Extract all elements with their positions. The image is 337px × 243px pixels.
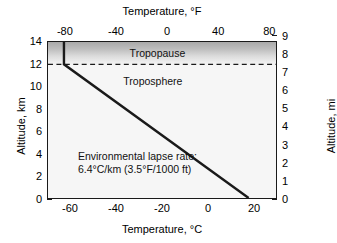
right-tick-label: 8 [282,48,307,60]
lapse-rate-line-2: 6.4°C/km (3.5°F/1000 ft) [78,163,197,177]
bottom-tick-label: 20 [248,202,260,214]
left-tick-label: 8 [17,103,42,115]
bottom-tick-label: -40 [108,202,124,214]
right-tick-label: 0 [282,193,307,205]
bottom-axis-title: Temperature, °C [122,223,202,235]
right-tick-label: 2 [282,157,307,169]
bottom-tick-label: 0 [205,202,211,214]
left-tick-label: 10 [17,80,42,92]
right-axis-title: Altitude, mi [325,81,337,171]
right-tick-label: 4 [282,120,307,132]
plot-area: Tropopause Troposphere Environmental lap… [47,41,277,199]
right-tick-label: 1 [282,175,307,187]
right-tick-label: 3 [282,139,307,151]
left-tick-label: 4 [17,148,42,160]
top-tick-label: 0 [164,25,170,37]
left-tick-label: 0 [17,193,42,205]
left-tick-label: 6 [17,125,42,137]
lapse-rate-annotation: Environmental lapse rate: 6.4°C/km (3.5°… [78,150,197,177]
bottom-tick-label: -60 [62,202,78,214]
tropopause-label: Tropopause [130,47,186,59]
right-tick-label: 5 [282,102,307,114]
right-tick-label: 9 [282,30,307,42]
troposphere-label: Troposphere [123,75,182,87]
right-tick-label: 7 [282,66,307,78]
top-axis-title: Temperature, °F [123,5,202,17]
left-tick-label: 12 [17,58,42,70]
left-tick-label: 2 [17,170,42,182]
left-tick-label: 14 [17,35,42,47]
top-tick-label: -80 [57,25,73,37]
top-tick-label: -40 [108,25,124,37]
right-tick [272,35,277,36]
bottom-tick-label: -20 [154,202,170,214]
lapse-rate-line-1: Environmental lapse rate: [78,150,197,164]
right-tick-label: 6 [282,84,307,96]
top-tick-label: 40 [212,25,224,37]
